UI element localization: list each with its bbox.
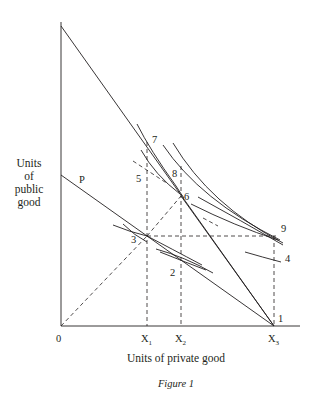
indifference-curve-4: [245, 252, 281, 262]
point-label-7: 7: [152, 134, 157, 145]
lower-budget-line-p: [61, 175, 274, 326]
origin-label: 0: [56, 333, 61, 344]
x2-label: X2: [175, 333, 187, 347]
point-label-5: 5: [136, 173, 141, 184]
indifference-curve-3: [113, 225, 202, 265]
point-label-3: 3: [131, 234, 136, 245]
line-label-p: P: [79, 174, 85, 185]
point-label-2: 2: [170, 267, 175, 278]
point-label-6: 6: [184, 191, 189, 202]
x-axis-label: Units of private good: [0, 352, 312, 364]
dashed-tangent-near-9: [203, 218, 218, 226]
ray-origin-to-3: [61, 236, 147, 326]
x3-label: X3: [268, 333, 280, 347]
ray-3-to-6: [147, 196, 181, 236]
point-label-8: 8: [172, 168, 177, 179]
x1-label: X1: [141, 333, 153, 347]
indifference-curve-outer: [173, 143, 283, 243]
diagram-canvas: 1 2 3 4 5 6 7 8 9 P 0 X1 X2 X3: [0, 0, 312, 404]
point-label-9: 9: [281, 223, 286, 234]
point-label-4: 4: [285, 253, 291, 264]
indifference-curve-7: [137, 124, 184, 198]
point-label-1: 1: [278, 313, 283, 324]
figure-caption: Figure 1: [0, 378, 312, 389]
